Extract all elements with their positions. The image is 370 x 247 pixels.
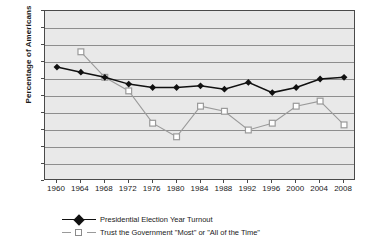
data-point-square bbox=[317, 98, 323, 104]
y-axis-title: Percentage of Americans bbox=[24, 0, 33, 135]
data-point-diamond bbox=[149, 84, 156, 91]
data-point-diamond bbox=[341, 74, 348, 81]
data-point-square bbox=[126, 88, 132, 94]
open-square-key-icon bbox=[62, 227, 96, 238]
data-point-square bbox=[150, 120, 156, 126]
chart-container: Percentage of Americans 0102030405060708… bbox=[0, 0, 370, 247]
legend-item-turnout: Presidential Election Year Turnout bbox=[62, 213, 260, 226]
data-point-diamond bbox=[245, 79, 252, 86]
data-point-diamond bbox=[54, 64, 61, 71]
data-point-square bbox=[245, 127, 251, 133]
data-point-diamond bbox=[173, 84, 180, 91]
data-point-diamond bbox=[125, 81, 132, 88]
legend-label-trust: Trust the Government "Most" or "All of t… bbox=[96, 228, 260, 237]
x-axis-tick-label: 2008 bbox=[326, 184, 360, 193]
series-trust-the-government bbox=[78, 49, 347, 140]
data-point-square bbox=[174, 134, 180, 140]
data-point-diamond bbox=[221, 86, 228, 93]
series-layer bbox=[45, 11, 356, 181]
legend-item-trust: Trust the Government "Most" or "All of t… bbox=[62, 226, 260, 239]
series-line bbox=[81, 52, 344, 137]
filled-diamond-key-icon bbox=[62, 214, 96, 225]
chart-legend: Presidential Election Year Turnout Trust… bbox=[62, 213, 260, 239]
data-point-square bbox=[293, 103, 299, 109]
data-point-square bbox=[341, 122, 347, 128]
data-point-square bbox=[269, 120, 275, 126]
plot-area bbox=[44, 10, 355, 180]
y-axis-tick-mark bbox=[41, 180, 44, 181]
data-point-diamond bbox=[197, 82, 204, 89]
data-point-diamond bbox=[269, 89, 276, 96]
series-presidential-election-year-turnout bbox=[54, 64, 348, 96]
data-point-diamond bbox=[77, 69, 84, 76]
data-point-square bbox=[78, 49, 84, 55]
legend-label-turnout: Presidential Election Year Turnout bbox=[96, 215, 213, 224]
data-point-square bbox=[222, 108, 228, 114]
data-point-diamond bbox=[293, 84, 300, 91]
data-point-square bbox=[198, 103, 204, 109]
data-point-diamond bbox=[317, 76, 324, 83]
